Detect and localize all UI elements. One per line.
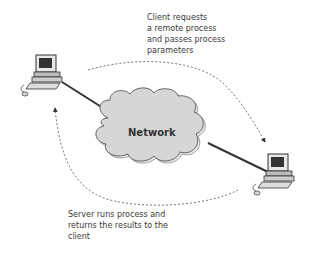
client-network-link (62, 82, 103, 108)
request-caption: Client requests a remote process and pas… (147, 12, 225, 56)
server-computer-icon (253, 154, 294, 195)
network-label: Network (128, 127, 176, 138)
cloud-icon (96, 88, 205, 163)
return-caption: Server runs process and returns the resu… (68, 209, 168, 242)
client-computer-icon (21, 55, 62, 96)
network-server-link (208, 143, 268, 172)
diagram-canvas: Network Client requests a remote process… (0, 0, 314, 253)
